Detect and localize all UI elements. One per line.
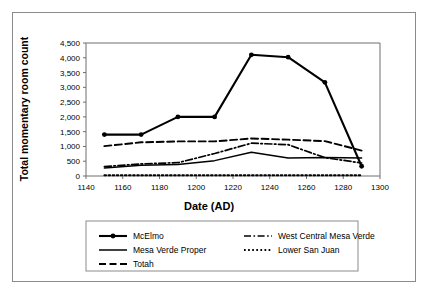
figure-container: 05001,0001,5002,0002,5003,0003,5004,0004… <box>12 12 416 282</box>
legend-label: Mesa Verde Proper <box>133 245 206 255</box>
series-line-west-central-mesa-verde <box>104 143 361 166</box>
x-tick-label: 1180 <box>151 183 169 192</box>
series-line-totah <box>104 138 361 150</box>
data-series-group <box>102 52 364 175</box>
series-line-mcelmo <box>104 55 361 166</box>
x-tick-label: 1260 <box>298 183 316 192</box>
series-marker-mcelmo <box>286 55 291 60</box>
series-marker-mcelmo <box>212 114 217 119</box>
series-marker-mcelmo <box>139 132 144 137</box>
series-line-mesa-verde-proper <box>104 152 361 168</box>
series-marker-mcelmo <box>175 114 180 119</box>
legend-label: McElmo <box>133 231 164 241</box>
series-marker-mcelmo <box>322 80 327 85</box>
y-tick-label: 4,000 <box>60 54 81 63</box>
chart-canvas: 05001,0001,5002,0002,5003,0003,5004,0004… <box>13 13 415 281</box>
series-marker-mcelmo <box>102 132 107 137</box>
x-axis-title: Date (AD) <box>184 200 234 212</box>
y-axis-ticks: 05001,0001,5002,0002,5003,0003,5004,0004… <box>60 39 86 181</box>
x-tick-label: 1200 <box>187 183 205 192</box>
y-tick-label: 4,500 <box>60 39 81 48</box>
x-tick-label: 1300 <box>371 183 389 192</box>
series-marker-mcelmo <box>249 52 254 57</box>
y-tick-label: 500 <box>67 157 81 166</box>
x-axis-ticks: 114011601180120012201240126012801300 <box>77 176 389 192</box>
y-tick-label: 2,500 <box>60 98 81 107</box>
legend-label: West Central Mesa Verde <box>278 231 375 241</box>
series-marker-mcelmo <box>359 164 364 169</box>
y-tick-label: 2,000 <box>60 113 81 122</box>
x-tick-label: 1160 <box>114 183 132 192</box>
y-axis-title: Total momentary room count <box>18 36 30 181</box>
x-tick-label: 1240 <box>261 183 279 192</box>
y-tick-label: 0 <box>76 172 81 181</box>
legend-label: Totah <box>133 259 154 269</box>
y-tick-label: 3,000 <box>60 83 81 92</box>
y-tick-label: 1,500 <box>60 128 81 137</box>
legend-swatch-marker <box>111 234 116 239</box>
y-tick-label: 1,000 <box>60 142 81 151</box>
x-tick-label: 1220 <box>224 183 242 192</box>
legend-label: Lower San Juan <box>278 245 340 255</box>
x-tick-label: 1280 <box>334 183 352 192</box>
x-tick-label: 1140 <box>77 183 95 192</box>
y-tick-label: 3,500 <box>60 69 81 78</box>
